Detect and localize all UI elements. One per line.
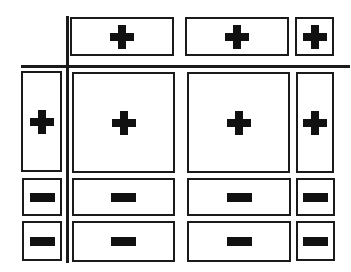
minus-icon <box>111 237 136 246</box>
row2-cell-3 <box>296 178 335 216</box>
plus-icon <box>112 111 136 135</box>
row3-cell-2 <box>187 221 291 262</box>
minus-icon <box>303 237 328 246</box>
minus-icon <box>227 193 252 202</box>
row3-label-cell <box>22 221 62 261</box>
row1-cell-2 <box>187 72 290 173</box>
minus-icon <box>111 193 136 202</box>
row1-label-cell <box>21 71 62 172</box>
row2-cell-2 <box>187 178 291 216</box>
minus-icon <box>30 237 55 246</box>
plus-icon <box>303 111 327 135</box>
plus-icon <box>303 25 327 49</box>
row3-cell-1 <box>72 221 175 262</box>
row2-label-cell <box>22 178 62 216</box>
horizontal-divider <box>21 65 350 68</box>
vertical-divider <box>66 16 69 263</box>
row3-cell-3 <box>296 221 335 261</box>
header-cell-1 <box>70 17 174 56</box>
header-cell-3 <box>295 17 334 56</box>
row1-cell-1 <box>72 72 175 173</box>
minus-icon <box>227 237 252 246</box>
plus-icon <box>110 25 134 49</box>
row1-cell-3 <box>296 72 334 173</box>
plus-icon <box>30 110 54 134</box>
minus-icon <box>30 193 55 202</box>
header-cell-2 <box>185 17 289 56</box>
minus-icon <box>303 193 328 202</box>
plus-icon <box>227 111 251 135</box>
plus-icon <box>225 25 249 49</box>
row2-cell-1 <box>72 178 175 216</box>
